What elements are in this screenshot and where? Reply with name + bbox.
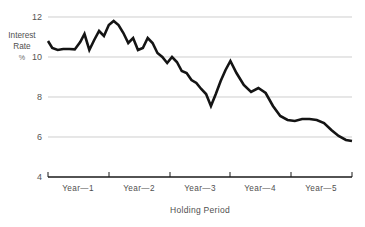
x-axis-ticks [48, 172, 352, 177]
x-axis-tick-labels: Year—1 Year—2 Year—3 Year—4 Year—5 [62, 184, 337, 193]
y-axis-title-percent: % [19, 53, 26, 62]
y-axis-title-line-1: Interest [8, 31, 36, 40]
y-axis-title-line-2: Rate [13, 42, 31, 51]
chart-container: 12 10 8 6 4 Interest Rate % Year—1 [0, 0, 365, 227]
x-tick-label-year-5: Year—5 [305, 184, 337, 193]
y-tick-label-12: 12 [32, 12, 42, 22]
x-tick-label-year-4: Year—4 [244, 184, 276, 193]
x-tick-label-year-1: Year—1 [62, 184, 94, 193]
interest-rate-line-chart: 12 10 8 6 4 Interest Rate % Year—1 [0, 0, 365, 227]
y-tick-label-4: 4 [37, 172, 42, 182]
x-axis-title: Holding Period [170, 205, 230, 215]
y-tick-label-10: 10 [32, 52, 42, 62]
y-tick-label-8: 8 [37, 92, 42, 102]
x-tick-label-year-3: Year—3 [184, 184, 216, 193]
interest-rate-series-line [48, 21, 352, 141]
y-tick-label-6: 6 [37, 132, 42, 142]
x-tick-label-year-2: Year—2 [123, 184, 155, 193]
